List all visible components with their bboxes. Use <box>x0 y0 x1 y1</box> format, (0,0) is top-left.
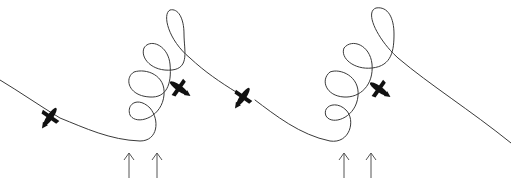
bird-icon <box>164 73 196 104</box>
flight-path-left <box>0 10 236 141</box>
bird-icon <box>227 82 258 114</box>
arrow-up-icon <box>152 153 162 178</box>
flight-path-diagram <box>0 0 511 189</box>
arrow-up-icon <box>124 153 134 178</box>
arrow-up-icon <box>366 153 376 178</box>
arrow-up-icon <box>339 153 349 178</box>
flight-path-right <box>255 8 511 143</box>
bird-icon <box>364 74 396 105</box>
